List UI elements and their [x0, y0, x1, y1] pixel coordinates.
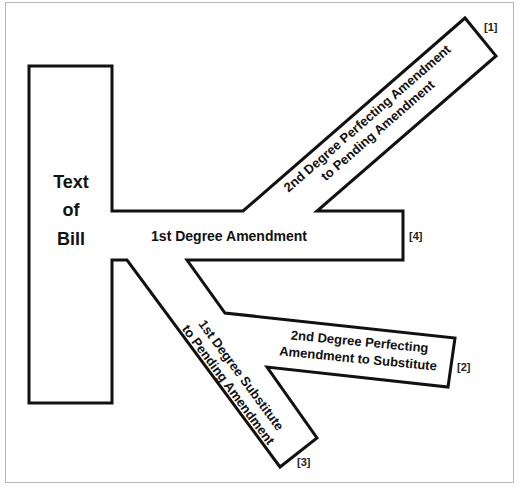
first-degree-amendment-label: 1st Degree Amendment: [151, 228, 307, 244]
note-2: [2]: [457, 361, 471, 373]
note-4: [4]: [409, 230, 423, 242]
amendment-diagram: Text of Bill 1st Degree Amendment [4] 2n…: [0, 0, 522, 490]
bill-label-line-1: Text: [53, 172, 89, 192]
bill-label-line-2: of: [63, 200, 81, 220]
note-3: [3]: [297, 456, 311, 468]
bill-label-line-3: Bill: [57, 229, 85, 249]
second-degree-pending-line-1: 2nd Degree Perfecting Amendment: [281, 41, 455, 195]
note-1: [1]: [484, 21, 498, 33]
